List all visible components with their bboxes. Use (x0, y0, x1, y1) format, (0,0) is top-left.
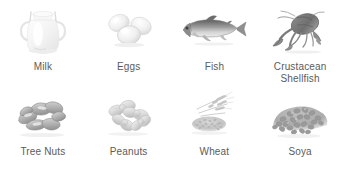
allergen-cell-soya: Soya (257, 86, 343, 171)
allergen-cell-milk: Milk (0, 0, 86, 86)
allergen-cell-tree-nuts: Tree Nuts (0, 86, 86, 171)
allergen-label-crustacean-shellfish: Crustacean Shellfish (274, 61, 327, 84)
milk-jug-icon (4, 4, 82, 58)
allergen-label-milk: Milk (34, 61, 52, 73)
allergen-cell-fish: Fish (172, 0, 258, 86)
allergen-cell-eggs: Eggs (86, 0, 172, 86)
allergen-cell-wheat: Wheat (172, 86, 258, 171)
allergen-grid: Milk (0, 0, 343, 171)
allergen-label-wheat: Wheat (200, 146, 230, 158)
allergen-label-soya: Soya (288, 146, 311, 158)
cashew-nuts-icon (4, 89, 82, 143)
soya-beans-icon (261, 89, 339, 143)
allergen-cell-crustacean-shellfish: Crustacean Shellfish (257, 0, 343, 86)
fish-icon (175, 4, 253, 58)
peanuts-icon (90, 89, 168, 143)
eggs-icon (90, 4, 168, 58)
allergen-label-peanuts: Peanuts (110, 146, 148, 158)
allergen-cell-peanuts: Peanuts (86, 86, 172, 171)
allergen-label-eggs: Eggs (117, 61, 140, 73)
crustacean-icon (261, 4, 339, 58)
allergen-label-fish: Fish (205, 61, 225, 73)
food-allergen-chart: Milk (0, 0, 343, 171)
wheat-grain-icon (175, 89, 253, 143)
allergen-label-tree-nuts: Tree Nuts (20, 146, 65, 158)
